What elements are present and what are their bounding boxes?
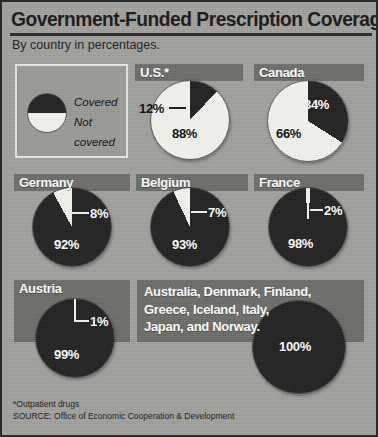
pie-chart-austria <box>35 298 115 378</box>
pct-not-covered: 66% <box>276 126 301 141</box>
country-card-france: France 2% 98% <box>254 174 364 272</box>
footnote-source: SOURCE: Office of Economic Cooperation &… <box>13 411 234 423</box>
country-card-canada: Canada 34% 66% <box>254 64 364 164</box>
pct-covered: 92% <box>54 237 79 252</box>
leader-line <box>191 211 207 213</box>
leader-line <box>72 212 89 214</box>
pie-chart-france <box>268 187 348 267</box>
country-label: Austria <box>19 281 62 296</box>
pie-chart-canada <box>267 80 349 162</box>
page-title: Government-Funded Prescription Coverage <box>11 8 368 31</box>
pct-not-covered: 1% <box>90 314 108 329</box>
pct-not-covered: 7% <box>208 205 226 220</box>
leader-line <box>76 320 89 322</box>
country-group-label: Australia, Denmark, Finland, Greece, Ice… <box>144 283 311 336</box>
country-label: Belgium <box>141 175 190 190</box>
country-card-germany: Germany 8% 92% <box>14 174 130 272</box>
country-card-belgium: Belgium 7% 93% <box>136 174 248 272</box>
country-label: France <box>259 175 300 190</box>
pie-chart-belgium <box>150 187 230 267</box>
pie-chart-germany <box>32 187 112 267</box>
legend: Covered Not covered <box>15 64 128 158</box>
country-label: U.S.* <box>140 65 169 80</box>
pct-covered: 99% <box>54 347 79 362</box>
footnotes: *Outpatient drugs SOURCE: Office of Econ… <box>13 399 234 422</box>
pct-covered-group: 100% <box>279 339 311 354</box>
pct-not-covered: 88% <box>172 126 197 141</box>
pie-chart-us <box>150 80 230 160</box>
pct-covered: 93% <box>172 237 197 252</box>
country-card-us: U.S.* 12% 88% <box>135 64 243 164</box>
pct-covered: 34% <box>304 97 329 112</box>
pct-not-covered: 8% <box>90 206 108 221</box>
country-card-austria: Austria 1% 99% <box>14 280 130 386</box>
pct-not-covered: 2% <box>324 203 342 218</box>
infographic-root: Government-Funded Prescription Coverage … <box>0 0 378 437</box>
pct-covered: 12% <box>139 101 164 116</box>
legend-item-not-covered: Not covered <box>74 112 126 152</box>
legend-labels: Covered Not covered <box>74 92 126 152</box>
half-filled-pie-icon <box>27 93 67 133</box>
footnote-asterisk: *Outpatient drugs <box>13 399 234 411</box>
leader-line <box>169 107 186 109</box>
page-subtitle: By country in percentages. <box>12 38 160 52</box>
leader-line <box>310 209 323 211</box>
country-label: Germany <box>19 175 73 190</box>
pct-covered: 98% <box>288 236 313 251</box>
legend-item-covered: Covered <box>74 92 126 112</box>
title-divider <box>10 33 372 36</box>
country-label: Canada <box>259 65 304 80</box>
